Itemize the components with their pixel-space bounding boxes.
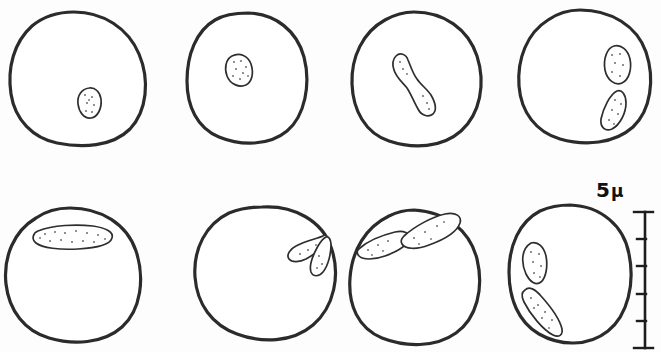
- cell-8: [509, 205, 631, 343]
- scale-bar-unit: μ: [611, 181, 625, 201]
- cell-4: [519, 10, 651, 143]
- scale-bar: [634, 212, 653, 348]
- cell-1: [10, 12, 146, 146]
- cell-6: [195, 207, 336, 340]
- scale-bar-label: 5μ: [596, 178, 624, 202]
- cell-1-nucleus: [78, 88, 101, 118]
- cell-7: [350, 210, 480, 345]
- cell-5: [6, 208, 141, 342]
- cell-5-nucleus: [33, 225, 112, 249]
- cell-3: [352, 12, 481, 146]
- figure-plate: 5μ: [0, 0, 661, 352]
- cell-1-membrane: [10, 12, 146, 146]
- cell-drawings-svg: [0, 0, 661, 352]
- cell-2: [187, 13, 307, 143]
- cell-4-membrane: [519, 10, 651, 143]
- scale-bar-value: 5: [596, 178, 611, 202]
- cell-4-nucleus-upper: [604, 46, 630, 84]
- cell-2-nucleus: [226, 54, 253, 86]
